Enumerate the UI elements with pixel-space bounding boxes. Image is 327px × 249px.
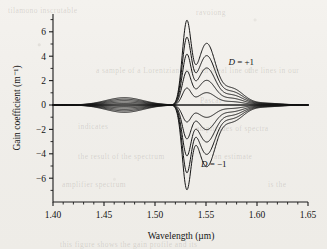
y-axis-title: Gain coefficient (m⁻¹): [12, 65, 23, 150]
y-tick-label: −6: [36, 174, 46, 184]
x-axis-tick-labels: 1.401.451.501.551.601.65: [45, 210, 317, 220]
gain-coefficient-chart: 6420−2−4−6 1.401.451.501.551.601.65 Gain…: [0, 0, 327, 249]
y-axis-ticks: [49, 20, 53, 191]
figure-container: tilamono inscrutableravoionga sample of …: [0, 0, 327, 249]
x-tick-label: 1.50: [147, 210, 164, 220]
axis-frame: [53, 14, 308, 202]
d-minus-one-label: D = −1: [200, 159, 227, 169]
x-tick-label: 1.55: [198, 210, 215, 220]
x-tick-label: 1.40: [45, 210, 62, 220]
y-axis-tick-labels: 6420−2−4−6: [36, 27, 46, 183]
x-tick-label: 1.65: [300, 210, 317, 220]
y-tick-label: 0: [41, 100, 46, 110]
y-tick-label: −2: [36, 125, 46, 135]
y-tick-label: 4: [41, 52, 46, 62]
d-plus-one-label: D = +1: [227, 57, 254, 67]
y-tick-label: 6: [41, 27, 46, 37]
y-tick-label: 2: [41, 76, 46, 86]
y-tick-label: −4: [36, 149, 46, 159]
x-tick-label: 1.60: [249, 210, 266, 220]
x-tick-label: 1.45: [96, 210, 113, 220]
x-axis-title: Wavelength (µm): [148, 231, 215, 242]
x-axis-ticks: [53, 202, 308, 206]
